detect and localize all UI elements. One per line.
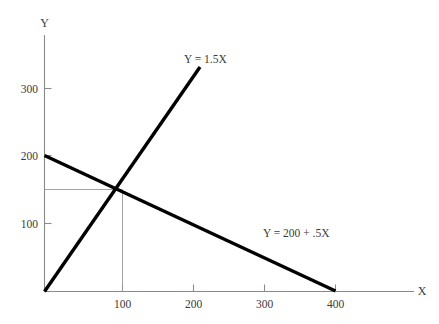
- y-axis-label: Y: [40, 16, 49, 30]
- y-tick-label-300: 300: [21, 83, 39, 95]
- data-line-demand: [45, 156, 336, 292]
- x-tick-label-200: 200: [185, 298, 203, 310]
- y-tick-label-200: 200: [21, 150, 39, 162]
- linear-equations-plot: Y X 100 200 300 400 100 200 300 Y = 1.5X…: [0, 0, 439, 324]
- x-tick-label-100: 100: [114, 298, 132, 310]
- series-label-supply: Y = 1.5X: [184, 53, 227, 65]
- x-tick-label-400: 400: [327, 298, 345, 310]
- y-tick-label-100: 100: [21, 218, 39, 230]
- series-label-demand: Y = 200 + .5X: [263, 227, 330, 239]
- x-axis-label: X: [418, 284, 427, 298]
- chart-figure: Y X 100 200 300 400 100 200 300 Y = 1.5X…: [0, 0, 439, 324]
- x-tick-label-300: 300: [256, 298, 274, 310]
